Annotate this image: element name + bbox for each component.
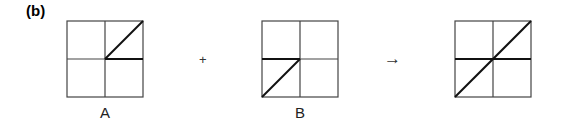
plus-operator: + [199, 52, 207, 67]
diagram-canvas [0, 0, 566, 130]
arrow-operator: → [384, 49, 401, 69]
grid-b-label: B [290, 104, 310, 121]
grid-a-label: A [95, 104, 115, 121]
path-segment [262, 59, 300, 97]
path-segment [105, 21, 143, 59]
